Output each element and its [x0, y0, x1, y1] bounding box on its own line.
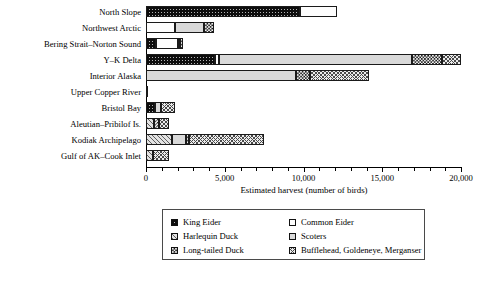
chart-container: North SlopeNorthwest ArcticBering Strait…: [0, 0, 484, 284]
bar-segment: [161, 102, 175, 113]
x-axis-major-tick: [382, 167, 383, 172]
legend-item-label: Bufflehead, Goldeneye, Merganser: [301, 245, 421, 255]
x-axis-minor-tick: [272, 167, 273, 171]
legend-item-label: Harlequin Duck: [183, 231, 238, 241]
x-axis-minor-tick: [193, 167, 194, 171]
bar-segment: [172, 134, 186, 145]
x-axis-minor-tick: [209, 167, 210, 171]
chart-legend: King EiderHarlequin DuckLong-tailed Duck…: [162, 209, 425, 260]
legend-item[interactable]: Long-tailed Duck: [171, 243, 244, 257]
legend-swatch-icon: [171, 219, 178, 226]
y-axis-label: Bristol Bay: [102, 103, 141, 114]
bar-row: [146, 150, 169, 161]
legend-item-label: Scoters: [301, 231, 326, 241]
x-axis-minor-tick: [430, 167, 431, 171]
x-axis-title: Estimated harvest (number of birds): [146, 185, 462, 195]
bar-segment: [146, 134, 172, 145]
legend-item[interactable]: King Eider: [171, 215, 244, 229]
legend-item[interactable]: Bufflehead, Goldeneye, Merganser: [289, 243, 421, 257]
bar-row: [146, 134, 264, 145]
legend-item[interactable]: Common Eider: [289, 215, 421, 229]
y-axis-category-labels: North SlopeNorthwest ArcticBering Strait…: [0, 6, 141, 166]
bar-segment: [146, 150, 153, 161]
y-axis-label: Upper Copper River: [71, 87, 141, 98]
legend-item[interactable]: Harlequin Duck: [171, 229, 244, 243]
x-axis-tick-label: 5,000: [215, 173, 234, 183]
x-axis-major-tick: [304, 167, 305, 172]
bar-row: [146, 86, 148, 97]
bar-segment: [146, 54, 215, 65]
bar-segment: [153, 150, 169, 161]
bar-segment: [156, 38, 178, 49]
bar-row: [146, 70, 369, 81]
legend-swatch-icon: [289, 233, 296, 240]
x-axis-tick-label: 20,000: [449, 173, 473, 183]
bar-segment: [296, 70, 310, 81]
bar-segment: [146, 118, 154, 129]
x-axis-minor-tick: [288, 167, 289, 171]
x-axis-major-tick: [461, 167, 462, 172]
bar-segment: [146, 6, 300, 17]
legend-column-right: Common EiderScotersBufflehead, Goldeneye…: [289, 215, 421, 257]
bar-segment: [412, 54, 442, 65]
x-axis-minor-tick: [414, 167, 415, 171]
bar-segment: [146, 86, 148, 97]
bar-row: [146, 6, 337, 17]
x-axis-minor-tick: [398, 167, 399, 171]
legend-swatch-icon: [171, 233, 178, 240]
x-axis-minor-tick: [162, 167, 163, 171]
bar-row: [146, 54, 461, 65]
bar-row: [146, 118, 169, 129]
bar-segment: [146, 38, 156, 49]
bar-segment: [310, 70, 369, 81]
x-axis-tick-label: 15,000: [370, 173, 394, 183]
x-axis-minor-tick: [241, 167, 242, 171]
legend-swatch-icon: [289, 247, 296, 254]
bar-segment: [204, 22, 213, 33]
bar-segment: [442, 54, 461, 65]
legend-swatch-icon: [289, 219, 296, 226]
x-axis-minor-tick: [319, 167, 320, 171]
bar-row: [146, 22, 214, 33]
bar-segment: [300, 6, 337, 17]
x-axis-minor-tick: [351, 167, 352, 171]
y-axis-label: Kodiak Archipelago: [72, 135, 141, 146]
bar-segment: [159, 118, 168, 129]
legend-swatch-icon: [171, 247, 178, 254]
y-axis-label: Bering Strait–Norton Sound: [44, 39, 141, 50]
bar-row: [146, 102, 175, 113]
legend-column-left: King EiderHarlequin DuckLong-tailed Duck: [171, 215, 244, 257]
legend-item-label: Long-tailed Duck: [183, 245, 244, 255]
bar-segment: [146, 102, 155, 113]
x-axis-minor-tick: [256, 167, 257, 171]
y-axis-label: North Slope: [99, 7, 141, 18]
bar-segment: [189, 134, 264, 145]
y-axis-label: Y–K Delta: [104, 55, 141, 66]
bar-segment: [175, 22, 204, 33]
x-axis-tick-label: 0: [144, 173, 148, 183]
x-axis-tick-label: 10,000: [292, 173, 316, 183]
bar-segment: [146, 22, 175, 33]
x-axis-minor-tick: [335, 167, 336, 171]
y-axis-label: Gulf of AK–Cook Inlet: [61, 151, 141, 162]
bar-segment: [219, 54, 412, 65]
y-axis-label: Interior Alaska: [90, 71, 141, 82]
legend-item[interactable]: Scoters: [289, 229, 421, 243]
x-axis-major-tick: [146, 167, 147, 172]
y-axis-label: Aleutian–Pribilof Is.: [70, 119, 141, 130]
legend-item-label: King Eider: [183, 217, 221, 227]
bar-segment: [146, 70, 296, 81]
x-axis-minor-tick: [178, 167, 179, 171]
bar-segment: [180, 38, 183, 49]
x-axis-minor-tick: [367, 167, 368, 171]
x-axis-major-tick: [225, 167, 226, 172]
bar-row: [146, 38, 183, 49]
legend-item-label: Common Eider: [301, 217, 354, 227]
y-axis-label: Northwest Arctic: [82, 23, 141, 34]
x-axis-minor-tick: [445, 167, 446, 171]
